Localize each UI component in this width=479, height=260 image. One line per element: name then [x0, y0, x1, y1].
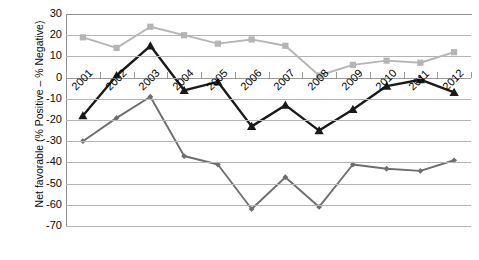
- diamond-marker: [384, 166, 390, 172]
- square-marker: [417, 60, 423, 66]
- gridline: [66, 226, 471, 227]
- series-light-grey-squares: [80, 24, 457, 79]
- y-tick-label: -60: [34, 199, 62, 210]
- gridline: [66, 56, 471, 57]
- series-medium-grey-diamonds: [80, 94, 457, 212]
- x-tick-mark: [302, 72, 303, 78]
- x-tick-mark: [66, 72, 67, 78]
- chart-figure: Net favorable (% Positive – % Negative) …: [0, 0, 479, 260]
- gridline: [66, 99, 471, 100]
- gridline: [66, 205, 471, 206]
- square-marker: [249, 36, 255, 42]
- x-tick-mark: [471, 72, 472, 78]
- gridline: [66, 141, 471, 142]
- square-marker: [114, 45, 120, 51]
- x-tick-mark: [269, 72, 270, 78]
- triangle-marker: [281, 101, 290, 109]
- series-line: [83, 46, 454, 131]
- square-marker: [282, 43, 288, 49]
- y-tick-label: -30: [34, 135, 62, 146]
- square-marker: [384, 58, 390, 64]
- triangle-marker: [146, 41, 155, 49]
- x-tick-mark: [134, 72, 135, 78]
- y-tick-label: -10: [34, 93, 62, 104]
- square-marker: [147, 24, 153, 30]
- x-tick-mark: [100, 72, 101, 78]
- gridline: [66, 184, 471, 185]
- y-tick-label: 20: [34, 29, 62, 40]
- x-tick-mark: [437, 72, 438, 78]
- gridline: [66, 162, 471, 163]
- gridline: [66, 120, 471, 121]
- x-tick-mark: [336, 72, 337, 78]
- y-tick-label: -70: [34, 220, 62, 231]
- y-axis-tick-labels: 3020100-10-20-30-40-50-60-70: [34, 0, 62, 260]
- square-marker: [215, 41, 221, 47]
- y-tick-label: 0: [34, 72, 62, 83]
- series-line: [83, 97, 454, 209]
- y-tick-label: 10: [34, 50, 62, 61]
- series-line: [83, 27, 454, 76]
- x-tick-mark: [370, 72, 371, 78]
- x-tick-mark: [404, 72, 405, 78]
- y-tick-label: -50: [34, 178, 62, 189]
- square-marker: [451, 49, 457, 55]
- y-tick-label: -40: [34, 156, 62, 167]
- diamond-marker: [417, 168, 423, 174]
- x-tick-mark: [235, 72, 236, 78]
- plot-area: [66, 14, 471, 226]
- x-tick-mark: [167, 72, 168, 78]
- y-tick-label: 30: [34, 8, 62, 19]
- gridline: [66, 35, 471, 36]
- x-tick-mark: [201, 72, 202, 78]
- y-tick-label: -20: [34, 114, 62, 125]
